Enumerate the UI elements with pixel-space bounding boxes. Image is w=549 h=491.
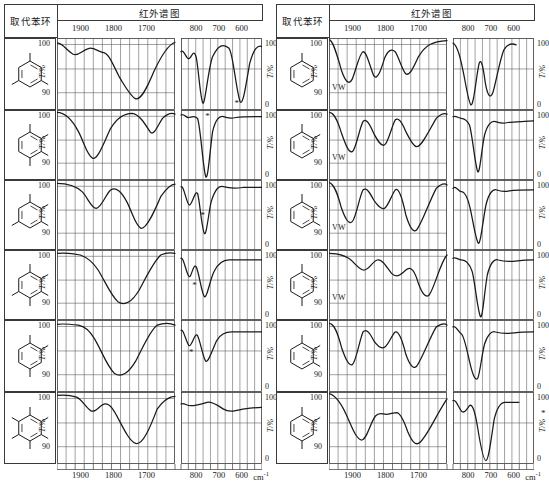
spectrum-row: 100901000T/%T/% xyxy=(276,320,534,392)
y-tick-left-100: 100 xyxy=(38,393,50,402)
structure-cell-1,2,3-trimethylbenzene xyxy=(276,320,328,392)
spectrum-curve-panel-a xyxy=(57,324,175,376)
header-tick-600: 600 xyxy=(235,23,248,33)
y-axis-label-left: T/% xyxy=(310,136,319,149)
spectrum-curve-panel-b xyxy=(453,258,534,317)
y-axis-label-left: T/% xyxy=(310,65,319,78)
star-marker: * xyxy=(192,280,197,290)
y-tick-left-100: 100 xyxy=(310,181,322,190)
spectrum-row: 100901000T/%T/%* xyxy=(4,38,262,110)
y-tick-left-90: 90 xyxy=(42,158,50,167)
vw-annotation: VW xyxy=(332,153,346,162)
right-header: 取代苯环 红外谱图 190018001700800700600 xyxy=(276,4,534,36)
x-tick-1700: 1700 xyxy=(410,470,427,480)
left-header: 取代苯环 红外谱图 190018001700800700600 xyxy=(4,4,262,36)
spectrum-curve-panel-a xyxy=(57,183,175,228)
spectrum-curve-panel-a xyxy=(329,253,447,296)
y-axis-label-right: T/% xyxy=(538,206,547,219)
y-tick-right-0: 0 xyxy=(265,240,269,249)
header-spectrum-label: 红外谱图 xyxy=(329,4,535,21)
y-tick-left-90: 90 xyxy=(314,158,322,167)
spectrum-row: 100901000T/%T/%* xyxy=(4,320,262,392)
header-tick-1800: 1800 xyxy=(105,23,122,33)
y-axis-label-left: T/% xyxy=(38,136,47,149)
x-tick-1800: 1800 xyxy=(105,470,122,480)
header-tick-800: 800 xyxy=(462,23,475,33)
spectrum-plot-ortho-xylene: 100901000T/%T/%VW xyxy=(329,110,534,180)
structure-cell-benzene-monosubstituted xyxy=(276,38,328,110)
y-tick-right-0: 0 xyxy=(265,454,269,463)
x-tick-600: 600 xyxy=(235,470,248,480)
spectrum-row: 100901000T/%T/% xyxy=(4,392,262,464)
spectrum-curve-panel-b xyxy=(453,400,519,460)
header-tick-1700: 1700 xyxy=(410,23,427,33)
spectrum-curve-panel-a xyxy=(57,42,175,99)
spectrum-plot-1,2,4-trisubstituted-benzene-ring: 100901000T/%T/%* xyxy=(57,320,262,392)
header-structure-label: 取代苯环 xyxy=(4,4,58,38)
header-tick-1900: 1900 xyxy=(72,23,89,33)
y-tick-right-0: 0 xyxy=(265,382,269,391)
y-tick-right-0: 0 xyxy=(537,100,541,109)
x-axis-unit: cm-1 xyxy=(525,470,541,482)
header-tick-800: 800 xyxy=(190,23,203,33)
x-tick-600: 600 xyxy=(507,470,520,480)
y-tick-left-90: 90 xyxy=(314,370,322,379)
header-tick-1800: 1800 xyxy=(377,23,394,33)
spectrum-row: 100901000T/%T/%* xyxy=(4,110,262,180)
structure-cell-hexasubstituted-benzene-ring xyxy=(4,392,56,464)
spectrum-row: 100901000T/%T/%VW xyxy=(276,38,534,110)
spectrum-curve-panel-a xyxy=(329,323,447,367)
x-tick-1800: 1800 xyxy=(377,470,394,480)
spectrum-curve-panel-b xyxy=(453,43,516,105)
y-tick-left-90: 90 xyxy=(42,442,50,451)
spectrum-plot-1,2,3,5-tetramethylbenzene-like: 100901000T/%T/%* xyxy=(57,180,262,250)
y-tick-right-0: 0 xyxy=(265,100,269,109)
spectrum-curve-panel-a xyxy=(329,40,447,83)
y-tick-left-90: 90 xyxy=(314,88,322,97)
y-tick-left-100: 100 xyxy=(310,251,322,260)
spectrum-plot-1,2,3-trimethylbenzene: 100901000T/%T/% xyxy=(329,320,534,392)
structure-cell-para-xylene xyxy=(276,250,328,320)
y-tick-left-100: 100 xyxy=(38,321,50,330)
y-tick-right-0: 0 xyxy=(537,382,541,391)
left-bottom-axis: 190018001700800700600cm-1 xyxy=(57,470,262,488)
y-axis-label-left: T/% xyxy=(38,206,47,219)
y-axis-label-left: T/% xyxy=(310,419,319,432)
y-tick-right-0: 0 xyxy=(265,310,269,319)
spectrum-curve-panel-b xyxy=(181,115,262,178)
x-tick-700: 700 xyxy=(485,470,498,480)
x-tick-800: 800 xyxy=(190,470,203,480)
x-tick-1900: 1900 xyxy=(344,470,361,480)
header-tick-600: 600 xyxy=(507,23,520,33)
y-tick-right-0: 0 xyxy=(537,310,541,319)
y-axis-label-right: T/% xyxy=(538,65,547,78)
x-axis-unit: cm-1 xyxy=(253,470,269,482)
star-marker: * xyxy=(541,408,546,418)
y-tick-left-90: 90 xyxy=(314,298,322,307)
spectrum-curve-panel-b xyxy=(453,187,534,243)
star-marker: * xyxy=(234,98,239,108)
x-tick-800: 800 xyxy=(462,470,475,480)
x-tick-1700: 1700 xyxy=(138,470,155,480)
spectrum-plot-pentasubstituted-benzene-ring: 100901000T/%T/%* xyxy=(57,250,262,320)
y-tick-left-90: 90 xyxy=(42,88,50,97)
y-tick-left-100: 100 xyxy=(38,39,50,48)
y-tick-left-100: 100 xyxy=(310,393,322,402)
spectrum-plot-hexasubstituted-benzene-ring: 100901000T/%T/% xyxy=(57,392,262,464)
y-tick-right-100: 100 xyxy=(537,39,549,48)
y-tick-right-0: 0 xyxy=(537,170,541,179)
star-marker: * xyxy=(205,111,210,121)
header-structure-label: 取代苯环 xyxy=(276,4,330,38)
spectrum-row: 100901000T/%T/%VW xyxy=(276,180,534,250)
y-axis-label-left: T/% xyxy=(310,206,319,219)
y-tick-right-100: 100 xyxy=(537,393,549,402)
spectrum-row: 100901000T/%T/%VW xyxy=(276,250,534,320)
header-tick-1700: 1700 xyxy=(138,23,155,33)
y-tick-right-0: 0 xyxy=(265,170,269,179)
spectrum-curve-panel-b xyxy=(453,116,534,172)
header-tick-1900: 1900 xyxy=(344,23,361,33)
spectrum-curve-panel-a xyxy=(57,112,175,158)
spectrum-row: 100901000T/%T/%* xyxy=(276,392,534,464)
star-marker: * xyxy=(200,210,205,220)
spectrum-curve-panel-a xyxy=(57,253,175,304)
